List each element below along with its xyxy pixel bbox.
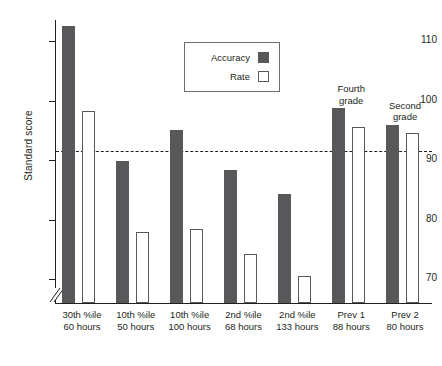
- bar-rate: [352, 127, 365, 303]
- bar-accuracy: [278, 194, 291, 303]
- y-axis-tick-label: 110: [395, 34, 437, 45]
- y-axis-tick-mark: [49, 41, 55, 42]
- legend-item: Accuracy: [185, 48, 279, 67]
- group-annotation: Fourthgrade: [320, 83, 382, 106]
- bar-accuracy: [116, 161, 129, 303]
- y-axis-line: [55, 20, 56, 288]
- legend-swatch-rate: [258, 71, 269, 82]
- legend-item-label: Accuracy: [211, 52, 250, 63]
- group-annotation-line: Fourth: [320, 83, 382, 95]
- bar-accuracy: [386, 125, 399, 304]
- legend-item: Rate: [185, 67, 279, 86]
- legend-swatch-accuracy: [258, 52, 269, 63]
- x-axis-category-label: Prev 280 hours: [368, 309, 442, 333]
- y-axis-tick-mark: [49, 160, 55, 161]
- group-annotation-line: grade: [320, 95, 382, 107]
- bar-accuracy: [62, 26, 75, 303]
- category-label-line: 80 hours: [368, 321, 442, 333]
- group-annotation-line: grade: [374, 111, 436, 123]
- bar-rate: [406, 133, 419, 303]
- group-annotation: Secondgrade: [374, 100, 436, 123]
- bar-rate: [82, 111, 95, 303]
- category-label-line: Prev 2: [368, 309, 442, 321]
- y-axis-tick-mark: [49, 220, 55, 221]
- y-axis-title: Standard score: [23, 76, 34, 216]
- bar-accuracy: [332, 108, 345, 303]
- legend: AccuracyRate: [184, 42, 280, 92]
- reference-line: [56, 151, 432, 152]
- bar-accuracy: [170, 130, 183, 303]
- bar-rate: [136, 232, 149, 303]
- legend-item-label: Rate: [230, 71, 250, 82]
- group-annotation-line: Second: [374, 100, 436, 112]
- x-axis-line: [55, 303, 432, 304]
- bar-rate: [298, 276, 311, 303]
- bar-accuracy: [224, 170, 237, 303]
- bar-rate: [244, 254, 257, 303]
- bar-rate: [190, 229, 203, 303]
- y-axis-tick-mark: [49, 101, 55, 102]
- y-axis-tick-mark: [49, 279, 55, 280]
